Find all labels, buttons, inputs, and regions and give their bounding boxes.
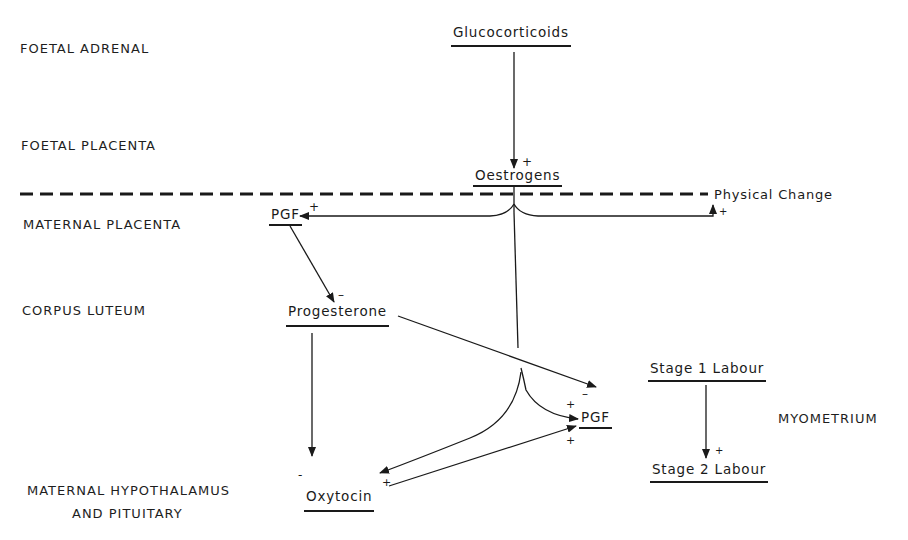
line-oestrogens-to-myometrium [514, 212, 518, 348]
node-stage1-labour: Stage 1 Labour [650, 360, 764, 376]
sign-progesterone-minus: – [338, 288, 344, 302]
underline [269, 224, 302, 226]
arrow-oxytocin-to-pgf [389, 426, 576, 486]
sign-physical-change-plus: + [719, 206, 727, 217]
sign-oxytocin-minus: - [298, 468, 302, 482]
region-label-corpus-luteum: CORPUS LUTEUM [22, 303, 146, 318]
underline [648, 380, 766, 382]
arrow-oestrogens-to-pgf-placenta [300, 204, 514, 216]
underline [286, 325, 389, 327]
node-pgf-placenta: PGF [271, 206, 300, 222]
underline [650, 481, 768, 483]
sign-pgf-myometrium-minus: – [582, 387, 588, 401]
region-label-maternal-hypothalamus: MATERNAL HYPOTHALAMUS [27, 483, 230, 498]
arrow-oestrogens-cusp-to-pgf [521, 368, 578, 419]
sign-oestrogens-plus: + [522, 155, 532, 169]
node-oestrogens-label: Oestrogens [475, 167, 560, 183]
underline [304, 510, 374, 512]
region-label-foetal-placenta: FOETAL PLACENTA [21, 138, 156, 153]
sign-pgf-myometrium-plus-top: + [566, 398, 575, 411]
connector-layer [0, 0, 908, 540]
arrow-pgf-to-progesterone [290, 226, 334, 302]
node-progesterone: Progesterone [288, 303, 387, 319]
diagram-canvas: FOETAL ADRENAL FOETAL PLACENTA MATERNAL … [0, 0, 908, 540]
node-pgf-myometrium-label: PGF [581, 409, 610, 425]
arrow-oestrogens-cusp-to-oxytocin [380, 372, 521, 473]
node-glucocorticoids-label: Glucocorticoids [453, 24, 569, 40]
node-oxytocin-label: Oxytocin [306, 488, 372, 504]
arrow-progesterone-to-pgf [398, 316, 596, 387]
node-stage2-labour: Stage 2 Labour [652, 461, 766, 477]
sign-pgf-placenta-plus: + [309, 200, 319, 214]
region-label-myometrium: MYOMETRIUM [778, 411, 878, 426]
node-pgf-myometrium: PGF [581, 409, 610, 425]
node-glucocorticoids: Glucocorticoids [453, 24, 569, 40]
node-pgf-placenta-label: PGF [271, 206, 300, 222]
sign-stage2-plus: + [715, 445, 723, 456]
node-stage1-labour-label: Stage 1 Labour [650, 360, 764, 376]
node-progesterone-label: Progesterone [288, 303, 387, 319]
node-physical-change: Physical Change [714, 187, 833, 202]
region-label-and-pituitary: AND PITUITARY [72, 506, 183, 521]
region-label-maternal-placenta: MATERNAL PLACENTA [23, 217, 181, 232]
sign-pgf-myometrium-plus-bottom: + [566, 434, 575, 447]
underline [579, 427, 612, 429]
underline [451, 45, 571, 47]
sign-oxytocin-plus: + [382, 476, 391, 489]
region-label-foetal-adrenal: FOETAL ADRENAL [20, 41, 149, 56]
node-oxytocin: Oxytocin [306, 488, 372, 504]
node-physical-change-label: Physical Change [714, 187, 833, 202]
node-stage2-labour-label: Stage 2 Labour [652, 461, 766, 477]
underline [473, 185, 562, 187]
arrow-oestrogens-to-physical-change [514, 204, 713, 216]
node-oestrogens: Oestrogens [475, 167, 560, 183]
